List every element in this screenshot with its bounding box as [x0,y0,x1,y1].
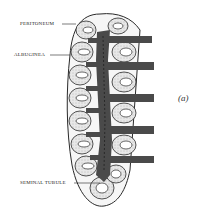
label-peritoneum: PERITONEUM [20,21,54,26]
anatomical-figure: PERITONEUM ALBUGINEA SEMINAL TUBULE (a) [0,0,205,222]
label-seminal-tubule: SEMINAL TUBULE [20,180,66,185]
panel-label: (a) [178,93,189,103]
label-albuginea: ALBUGINEA [14,52,45,57]
testis-cross-section-drawing [0,0,205,222]
